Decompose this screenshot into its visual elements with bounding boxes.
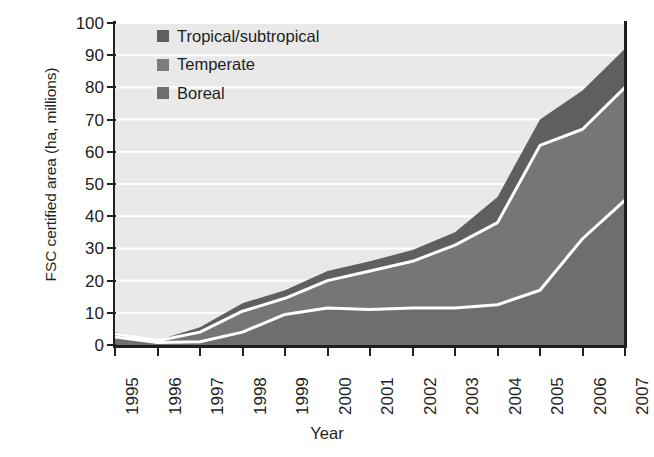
x-axis-tick-mark (624, 347, 626, 356)
y-axis-tick-mark (107, 86, 116, 88)
legend-item: Boreal (157, 83, 319, 103)
x-axis-tick-mark (114, 347, 116, 356)
legend-swatch-icon (157, 87, 169, 99)
y-axis-tick-label: 0 (52, 337, 104, 354)
x-axis-tick-label: 1996 (167, 359, 184, 415)
y-axis-tick-mark (107, 119, 116, 121)
y-axis-tick-label: 80 (52, 79, 104, 96)
x-axis-tick-mark (242, 347, 244, 356)
x-axis-tick-mark (157, 347, 159, 356)
y-axis-tick-mark (107, 22, 116, 24)
chart-figure: FSC certified area (ha, millions) 010203… (0, 0, 654, 457)
legend-label: Boreal (177, 85, 225, 102)
y-axis-tick-mark (107, 183, 116, 185)
y-axis-tick-mark (107, 280, 116, 282)
legend-swatch-icon (157, 59, 169, 71)
x-axis-tick-label: 2005 (549, 359, 566, 415)
legend-swatch-icon (157, 30, 169, 42)
x-axis-tick-label: 2002 (422, 359, 439, 415)
x-axis-tick-label: 2003 (464, 359, 481, 415)
x-axis-tick-mark (412, 347, 414, 356)
y-axis-tick-label: 60 (52, 143, 104, 160)
y-axis-tick-label: 30 (52, 240, 104, 257)
x-axis-tick-mark (369, 347, 371, 356)
chart-legend: Tropical/subtropicalTemperateBoreal (157, 26, 319, 103)
x-axis-tick-label: 2004 (507, 359, 524, 415)
x-axis-tick-mark (539, 347, 541, 356)
y-axis-tick-mark (107, 312, 116, 314)
x-axis-tick-mark (327, 347, 329, 356)
y-axis-tick-mark (107, 151, 116, 153)
y-axis-tick-mark (107, 344, 116, 346)
y-axis-tick-label: 70 (52, 111, 104, 128)
x-axis-tick-label: 2007 (634, 359, 651, 415)
plot-right-border (624, 21, 627, 347)
y-axis-tick-mark (107, 54, 116, 56)
x-axis-tick-label: 1999 (294, 359, 311, 415)
x-axis-tick-mark (199, 347, 201, 356)
x-axis-tick-label: 1997 (209, 359, 226, 415)
x-axis-tick-label: 2001 (379, 359, 396, 415)
x-axis-title: Year (0, 424, 654, 443)
legend-item: Temperate (157, 55, 319, 75)
x-axis-tick-label: 1995 (124, 359, 141, 415)
x-axis-tick-label: 1998 (252, 359, 269, 415)
x-axis-tick-mark (454, 347, 456, 356)
y-axis-tick-label: 100 (52, 15, 104, 32)
y-axis-tick-labels: 0102030405060708090100 (52, 23, 104, 345)
legend-label: Temperate (177, 56, 255, 73)
x-axis-tick-label: 2000 (337, 359, 354, 415)
x-axis-tick-mark (582, 347, 584, 356)
legend-label: Tropical/subtropical (177, 28, 319, 45)
y-axis-tick-label: 20 (52, 272, 104, 289)
y-axis-tick-label: 10 (52, 304, 104, 321)
y-axis-tick-label: 40 (52, 208, 104, 225)
y-axis-tick-label: 90 (52, 47, 104, 64)
legend-item: Tropical/subtropical (157, 26, 319, 46)
x-axis-tick-mark (284, 347, 286, 356)
x-axis-tick-label: 2006 (592, 359, 609, 415)
y-axis-tick-mark (107, 215, 116, 217)
y-axis-tick-label: 50 (52, 176, 104, 193)
y-axis-tick-mark (107, 247, 116, 249)
x-axis-tick-mark (497, 347, 499, 356)
